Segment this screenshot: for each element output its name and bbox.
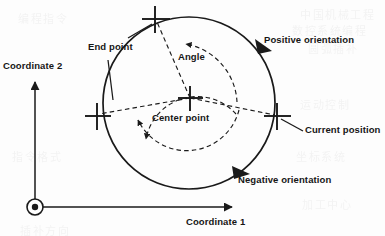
leader-current-position [281,119,303,131]
orientation-arrowheads-group [232,39,272,179]
start-point-marker [85,103,111,130]
angle-label: Angle [178,51,205,62]
circular-interpolation-diagram: 中国机械工程数控系统编程圆弧插补运动控制坐标系统加工中心编程指令指令格式插补方向 [0,0,385,236]
end-point-label: End point [88,41,133,52]
origin-center-dot-icon [32,204,38,210]
current-position-marker [264,103,291,130]
positive-orientation-label: Positive orientation [264,34,354,45]
coordinate-1-axis-label: Coordinate 1 [186,216,245,227]
dashed-radii-group [99,22,275,115]
coordinate-2-axis-label: Coordinate 2 [3,60,62,71]
current-position-label: Current position [305,124,381,135]
center-point-label: Center point [152,112,209,123]
leader-end-point-upper [128,24,152,38]
negative-orientation-label: Negative orientation [238,174,331,185]
